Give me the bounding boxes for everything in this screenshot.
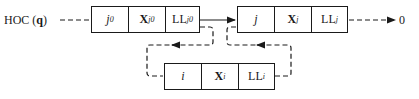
node-j0: j0 Xj0 LLj0 <box>91 6 200 33</box>
node-i-index-cell: i <box>165 64 202 89</box>
cell-main: LL <box>172 12 187 27</box>
node-j: j Xj LLj <box>237 6 348 33</box>
cell-main: i <box>181 69 184 84</box>
node-j-ll-cell: LLj <box>312 7 347 32</box>
head-label: HOC (q) <box>4 13 47 27</box>
node-i-ll-cell: LLi <box>239 64 274 89</box>
node-j-index-cell: j <box>238 7 275 32</box>
cell-sub: 0 <box>110 15 114 24</box>
head-label-suffix: ) <box>43 13 47 27</box>
cell-main: LL <box>248 69 263 84</box>
cell-sub: i <box>263 72 265 81</box>
node-i-x-cell: Xi <box>202 64 239 89</box>
cell-sub: j <box>296 15 298 24</box>
node-j0-ll-cell: LLj0 <box>166 7 199 32</box>
node-i: i Xi LLi <box>164 63 275 90</box>
cell-sub: j0 <box>187 15 193 24</box>
cell-sub: j0 <box>148 15 154 24</box>
cell-main: X <box>215 69 224 84</box>
cell-sub: i <box>223 72 225 81</box>
cell-main: j <box>254 12 257 27</box>
node-j-x-cell: Xj <box>275 7 312 32</box>
cell-main: X <box>140 12 149 27</box>
head-label-prefix: HOC ( <box>4 13 36 27</box>
linked-list-diagram: HOC (q) 0 j0 Xj0 LLj0 j Xj LLj i Xi <box>0 0 419 99</box>
terminal-null-label: 0 <box>399 13 405 27</box>
cell-sub: j <box>336 15 338 24</box>
node-j0-x-cell: Xj0 <box>129 7 166 32</box>
node-j0-index-cell: j0 <box>92 7 129 32</box>
cell-main: LL <box>321 12 336 27</box>
cell-main: X <box>288 12 297 27</box>
